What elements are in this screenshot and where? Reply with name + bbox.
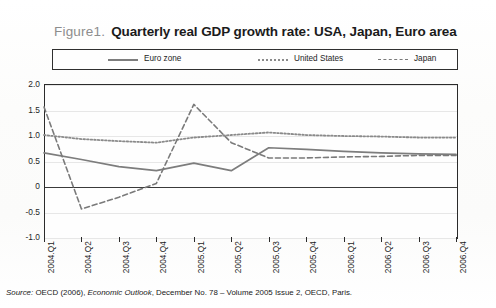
chart-legend: Euro zoneUnited StatesJapan bbox=[52, 49, 458, 70]
legend-label: Japan bbox=[414, 54, 436, 63]
x-axis-tick-label: 2004.Q4 bbox=[159, 241, 168, 273]
x-axis-tick-label: 2006.Q1 bbox=[347, 241, 356, 273]
x-axis-tick-label: 2006.Q4 bbox=[459, 241, 468, 273]
y-axis-labels: 2.01.51.00.50-0.5-1.0 bbox=[12, 84, 40, 237]
x-axis-tick-label: 2006.Q2 bbox=[384, 241, 393, 273]
series-line-euro-zone bbox=[44, 148, 456, 171]
x-axis-tick-label: 2006.Q3 bbox=[422, 241, 431, 273]
y-axis-tick-label: -1.0 bbox=[14, 233, 40, 241]
x-axis-tick-label: 2005.Q2 bbox=[234, 241, 243, 273]
x-axis-tick-label: 2004.Q3 bbox=[122, 241, 131, 273]
x-axis-tick-label: 2004.Q2 bbox=[84, 241, 93, 273]
source-text-after: , December No. 78 – Volume 2005 Issue 2,… bbox=[152, 288, 352, 297]
y-axis-tick-label: 0 bbox=[14, 182, 40, 190]
legend-swatch-icon bbox=[108, 59, 138, 61]
source-prefix: Source: bbox=[6, 288, 33, 297]
chart-series-layer bbox=[44, 84, 456, 237]
legend-swatch-icon bbox=[378, 59, 408, 60]
x-axis-labels: 2004.Q12004.Q22004.Q32004.Q42005.Q12005.… bbox=[44, 241, 456, 287]
figure-page: Figure1.Quarterly real GDP growth rate: … bbox=[0, 0, 496, 308]
legend-label: Euro zone bbox=[144, 54, 181, 63]
source-text-before: OECD (2006), bbox=[33, 288, 87, 297]
figure-label: Figure1. bbox=[54, 24, 105, 39]
figure-title: Quarterly real GDP growth rate: USA, Jap… bbox=[111, 24, 457, 39]
source-note: Source: OECD (2006), Economic Outlook, D… bbox=[6, 288, 352, 297]
x-axis-tick-label: 2005.Q4 bbox=[309, 241, 318, 273]
y-axis-tick-label: 1.5 bbox=[14, 106, 40, 114]
x-axis-tick-label: 2005.Q1 bbox=[197, 241, 206, 273]
series-line-japan bbox=[44, 104, 456, 209]
y-axis-tick-label: 2.0 bbox=[14, 80, 40, 88]
y-axis-tick-label: -0.5 bbox=[14, 208, 40, 216]
series-line-united-states bbox=[44, 132, 456, 142]
y-axis-tick-label: 1.0 bbox=[14, 131, 40, 139]
x-axis-tick-label: 2004.Q1 bbox=[47, 241, 56, 273]
source-publication: Economic Outlook bbox=[88, 288, 152, 297]
x-axis-tickmark bbox=[456, 237, 457, 242]
legend-label: United States bbox=[294, 54, 343, 63]
x-axis-tick-label: 2005.Q3 bbox=[272, 241, 281, 273]
page-title: Figure1.Quarterly real GDP growth rate: … bbox=[54, 22, 457, 40]
legend-swatch-icon bbox=[258, 59, 288, 61]
y-axis-tick-label: 0.5 bbox=[14, 157, 40, 165]
